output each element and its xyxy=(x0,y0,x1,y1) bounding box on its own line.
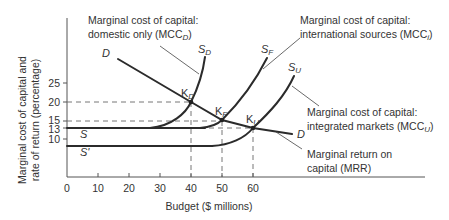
label-s-prime: S' xyxy=(80,146,90,158)
label-d-start: D xyxy=(102,47,110,59)
x-tick-10: 10 xyxy=(92,182,104,194)
y-tick-10: 10 xyxy=(48,133,60,145)
svg-text:rate of return (percentage): rate of return (percentage) xyxy=(29,59,41,182)
svg-text:integrated markets (MCCU): integrated markets (MCCU) xyxy=(307,120,434,134)
annotation-mcc-integrated: Marginal cost of capital: integrated mar… xyxy=(307,106,434,134)
label-d-end: D xyxy=(297,128,305,140)
chart: 25 20 15 13 10 0 10 20 30 40 50 60 Budge… xyxy=(0,0,449,220)
x-tick-60: 60 xyxy=(247,182,259,194)
y-ticks xyxy=(63,83,67,139)
y-tick-20: 20 xyxy=(48,96,60,108)
y-tick-labels: 25 20 15 13 10 xyxy=(48,77,60,145)
x-tick-labels: 0 10 20 30 40 50 60 xyxy=(64,182,259,194)
svg-text:Marginal return on: Marginal return on xyxy=(307,148,392,160)
label-su: SU xyxy=(288,61,301,75)
x-tick-50: 50 xyxy=(216,182,228,194)
svg-text:domestic only (MCCD): domestic only (MCCD) xyxy=(88,28,192,42)
annotation-mcc-domestic: Marginal cost of capital: domestic only … xyxy=(88,14,198,42)
svg-text:capital (MRR): capital (MRR) xyxy=(307,162,371,174)
x-tick-0: 0 xyxy=(64,182,70,194)
label-sf: SF xyxy=(261,43,274,57)
label-sd: SD xyxy=(198,43,211,57)
svg-text:Marginal cost of capital:: Marginal cost of capital: xyxy=(88,14,198,26)
x-axis-title: Budget ($ millions) xyxy=(166,200,253,212)
svg-text:Marginal cost of capital:: Marginal cost of capital: xyxy=(307,106,417,118)
svg-text:Marginal cost of capital and: Marginal cost of capital and xyxy=(16,56,28,184)
annotation-mrr: Marginal return on capital (MRR) xyxy=(307,148,392,174)
annotation-mcc-international: Marginal cost of capital: international … xyxy=(300,14,433,42)
x-tick-30: 30 xyxy=(154,182,166,194)
y-axis-title: Marginal cost of capital and rate of ret… xyxy=(16,56,41,184)
label-kf: KF xyxy=(215,105,228,119)
svg-text:international sources (MCCi): international sources (MCCi) xyxy=(300,28,433,42)
y-tick-25: 25 xyxy=(48,77,60,89)
label-kd: KD xyxy=(181,87,194,101)
x-tick-40: 40 xyxy=(185,182,197,194)
label-s: S xyxy=(80,128,88,140)
svg-text:Marginal cost of capital:: Marginal cost of capital: xyxy=(300,14,410,26)
label-ku: KU xyxy=(246,113,259,127)
x-ticks xyxy=(98,173,253,177)
curve-mcc-domestic xyxy=(150,57,205,128)
x-tick-20: 20 xyxy=(123,182,135,194)
curve-marginal-return xyxy=(118,59,292,134)
